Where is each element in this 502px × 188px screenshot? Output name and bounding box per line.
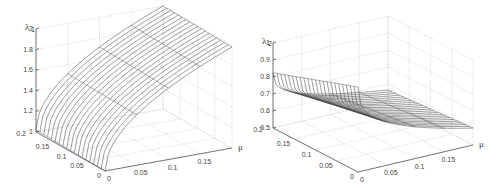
z-tick-label: 1.8 [23,46,33,53]
lambda2-surface-plot: 0.50.60.70.80.910.20.150.10.05000.050.10… [250,0,502,188]
y-tick-label: 0.15 [36,143,50,150]
mesh-line [100,47,169,88]
grid-line [316,123,431,150]
z-tick-label: 0.9 [260,56,270,63]
x-tick-label: 0 [107,175,111,182]
z-axis-label-subscript: 2 [268,40,272,47]
grid-line [88,138,215,161]
z-tick-label: 1 [29,128,33,135]
z-axis-label-subscript: 1 [31,26,35,33]
mesh-line [296,77,411,103]
mesh-line [292,76,407,101]
z-tick-label: 0.7 [260,90,270,97]
chart-lambda1: 11.21.41.61.820.20.150.10.05000.050.10.1… [0,0,251,188]
mesh-line [335,83,450,118]
z-tick-label: 1.6 [23,66,33,73]
z-axis-label: λ [25,22,30,32]
x-tick-label: 0.15 [197,158,211,165]
z-tick-label: 1.2 [23,107,33,114]
y-tick-label: 0.1 [302,151,312,158]
y-tick-label: 0.2 [16,130,26,137]
z-tick-label: 1.4 [23,87,33,94]
lambda1-surface-plot: 11.21.41.61.820.20.150.10.05000.050.10.1… [0,0,251,188]
y-tick-label: 0.05 [70,162,84,169]
x-tick-label: 0.05 [384,169,398,176]
x-tick-label: 0.05 [134,169,148,176]
mesh-line [308,79,423,108]
x-tick-label: 0.1 [415,163,425,170]
y-axis [273,128,358,172]
z-axis-label: λ [262,36,267,46]
y-tick-label: 0 [97,172,101,179]
grid-line [71,129,198,152]
mesh-line [304,78,419,106]
grid-line [337,134,452,161]
y-tick-label: 0.05 [319,162,333,169]
chart-lambda2: 0.50.60.70.80.910.20.150.10.05000.050.10… [250,0,501,188]
y-tick-label: 0 [350,173,354,180]
y-tick-label: 0.2 [253,126,263,133]
x-axis-label: μ [479,139,484,149]
grid-line [294,112,409,139]
y-tick-label: 0.15 [277,140,291,147]
x-axis-label: μ [238,142,243,152]
x-tick-label: 0.1 [168,164,178,171]
z-tick-label: 0.8 [260,73,270,80]
z-tick-label: 0.6 [260,107,270,114]
x-tick-label: 0 [360,176,364,183]
grid-line [302,121,387,165]
mesh-line [300,77,415,104]
y-tick-label: 0.1 [57,153,67,160]
x-tick-label: 0.15 [441,156,455,163]
